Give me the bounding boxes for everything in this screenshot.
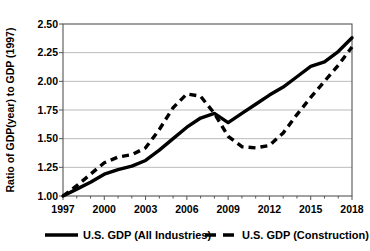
y-axis-title: Ratio of GDP(year) to GDP (1997) (4, 28, 16, 193)
x-axis-tick-label: 1997 (51, 203, 75, 215)
y-axis-tick-label: 1.50 (38, 132, 59, 144)
y-axis-tick-label: 1.25 (38, 161, 59, 173)
y-axis-tick-marks (59, 24, 63, 196)
y-axis-tick-label: 2.25 (38, 46, 59, 58)
x-axis-tick-marks (63, 196, 352, 200)
y-axis-tick-labels: 1.001.251.501.752.002.252.50 (38, 18, 59, 202)
x-axis-tick-labels: 19972000200320062009201220152018 (51, 203, 364, 215)
y-axis-title-text: Ratio of GDP(year) to GDP (1997) (4, 28, 16, 193)
x-axis-tick-label: 2012 (258, 203, 282, 215)
line-chart: 1.001.251.501.752.002.252.50 19972000200… (0, 0, 370, 251)
legend-label-construction: U.S. GDP (Construction) (242, 229, 369, 241)
x-axis-tick-label: 2015 (299, 203, 323, 215)
x-axis-tick-label: 2006 (175, 203, 199, 215)
y-axis-tick-label: 1.75 (38, 104, 59, 116)
chart-figure: 1.001.251.501.752.002.252.50 19972000200… (0, 0, 370, 251)
y-axis-tick-label: 1.00 (38, 190, 59, 202)
x-axis-tick-label: 2003 (134, 203, 158, 215)
x-axis-tick-label: 2009 (216, 203, 240, 215)
x-axis-tick-label: 2018 (340, 203, 364, 215)
legend-label-all-industries: U.S. GDP (All Industries) (83, 229, 211, 241)
chart-legend: U.S. GDP (All Industries) U.S. GDP (Cons… (45, 229, 369, 241)
x-axis-tick-label: 2000 (93, 203, 117, 215)
y-axis-tick-label: 2.00 (38, 75, 59, 87)
y-axis-tick-label: 2.50 (38, 18, 59, 30)
